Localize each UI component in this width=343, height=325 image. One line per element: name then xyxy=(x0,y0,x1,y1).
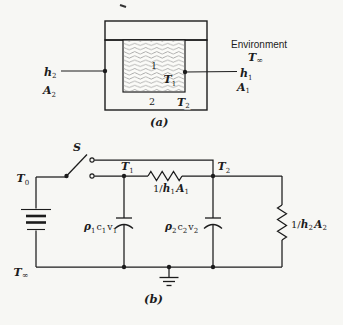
environment-label: Environment xyxy=(231,39,287,50)
resistor2-symbol xyxy=(278,205,287,240)
switch-blade xyxy=(67,155,88,177)
t1-label-b: T1 xyxy=(121,160,134,175)
ground-symbol xyxy=(160,267,179,286)
textbook-figure: Environment T∞ h1 A1 h2 A2 1 T1 2 T2 (a) xyxy=(0,0,343,325)
a1-label: A1 xyxy=(236,81,250,96)
rail-node-dot-2 xyxy=(211,265,215,269)
capacitor1-label: ρ1c1v1 xyxy=(83,220,117,235)
t-infinity-label-a: T∞ xyxy=(248,51,263,65)
h1-leader-line xyxy=(185,72,237,73)
outer-wall-node-dot xyxy=(103,69,107,73)
switch-label: S xyxy=(73,141,81,154)
switch-upper-contact xyxy=(90,158,94,162)
node-t1-dot xyxy=(122,174,126,178)
part-a-tank-diagram: Environment T∞ h1 A1 h2 A2 1 T1 2 T2 (a) xyxy=(42,21,287,129)
part-b-circuit-diagram: S T0 T∞ T1 T2 1/h1A1 1/h2A2 ρ1c1v1 ρ2c2v… xyxy=(14,141,327,306)
node-t2-dot xyxy=(211,174,215,178)
caption-a: (a) xyxy=(150,115,168,129)
region-1-label: 1 xyxy=(151,60,157,71)
switch-lower-contact xyxy=(90,174,94,178)
resistor2-label: 1/h2A2 xyxy=(291,218,327,233)
t2-label-b: T2 xyxy=(218,160,231,175)
resistor1-label: 1/h1A1 xyxy=(153,182,189,197)
h2-label: h2 xyxy=(44,66,56,81)
t-infinity-label-b: T∞ xyxy=(14,266,29,280)
tank-lid-hatch xyxy=(105,21,207,40)
figure-canvas: Environment T∞ h1 A1 h2 A2 1 T1 2 T2 (a) xyxy=(0,0,343,325)
region-2-label: 2 xyxy=(149,96,155,107)
capacitor2-label: ρ2c2v2 xyxy=(164,220,198,235)
h1-label: h1 xyxy=(240,67,252,82)
inner-wall-node-dot xyxy=(183,70,187,74)
resistor1-symbol xyxy=(148,172,182,181)
t2-label-a: T2 xyxy=(177,96,190,111)
a2-label: A2 xyxy=(42,84,56,99)
scan-artifact xyxy=(120,5,126,7)
rail-node-dot-ground xyxy=(167,265,171,269)
rail-node-dot-1 xyxy=(122,265,126,269)
t0-label: T0 xyxy=(17,172,30,187)
caption-b: (b) xyxy=(144,292,163,306)
switch-pole-dot xyxy=(64,174,68,178)
battery-symbol xyxy=(21,210,51,230)
wire-switch-upper-to-t2 xyxy=(94,160,213,176)
